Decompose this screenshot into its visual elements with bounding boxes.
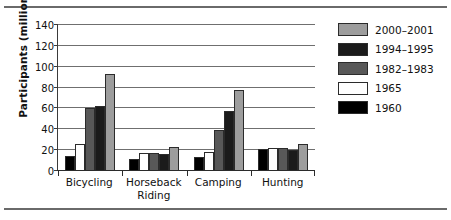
legend-swatch — [338, 62, 368, 75]
y-axis-title: Participants (millions) — [17, 0, 29, 126]
y-tick-label: 40 — [41, 124, 54, 135]
legend-swatch — [338, 82, 368, 95]
x-tick-label-line: Horseback — [122, 176, 187, 189]
legend-item: 1960 — [338, 101, 434, 114]
bar — [258, 149, 268, 171]
top-divider-rule — [4, 6, 447, 8]
legend-label: 2000–2001 — [375, 24, 434, 36]
bar-group — [187, 25, 251, 171]
bar — [85, 108, 95, 171]
bar — [278, 148, 288, 171]
y-tick-label: 100 — [35, 61, 54, 72]
plot-area: 020406080100120140 — [57, 25, 315, 171]
x-axis-line — [57, 170, 315, 171]
bar — [194, 157, 204, 171]
bar — [159, 154, 169, 171]
legend-item: 1994–1995 — [338, 43, 434, 56]
bar — [139, 153, 149, 171]
y-tick-label: 120 — [35, 40, 54, 51]
legend-label: 1994–1995 — [375, 43, 434, 55]
bar — [95, 106, 105, 171]
legend-swatch — [338, 23, 368, 36]
y-tick-label: 0 — [48, 166, 54, 177]
legend-item: 1965 — [338, 82, 434, 95]
y-tick-label: 20 — [41, 145, 54, 156]
legend-swatch — [338, 101, 368, 114]
x-tick-label: Bicycling — [57, 176, 122, 201]
x-tick-label-line: Bicycling — [57, 176, 122, 189]
bar-groups — [58, 25, 315, 171]
bar — [298, 144, 308, 171]
bar-group — [58, 25, 122, 171]
bar — [105, 74, 115, 172]
bar — [224, 111, 234, 171]
bar — [149, 153, 159, 171]
x-tick-label: Hunting — [251, 176, 316, 201]
bar — [204, 152, 214, 171]
bar-group — [251, 25, 315, 171]
y-tick-label: 80 — [41, 82, 54, 93]
x-tick-label: HorsebackRiding — [122, 176, 187, 201]
legend-label: 1965 — [375, 82, 402, 94]
legend-label: 1982–1983 — [375, 63, 434, 75]
legend: 2000–20011994–19951982–198319651960 — [338, 23, 434, 114]
y-tick-label: 140 — [35, 20, 54, 31]
bar — [75, 144, 85, 171]
x-tick-label-line: Riding — [122, 189, 187, 202]
legend-item: 2000–2001 — [338, 23, 434, 36]
bar — [268, 148, 278, 171]
x-tick-label-line: Camping — [186, 176, 251, 189]
bar — [214, 130, 224, 171]
bar — [234, 90, 244, 171]
bar-chart-figure: Participants (millions) 0204060801001201… — [0, 0, 451, 220]
legend-swatch — [338, 43, 368, 56]
legend-label: 1960 — [375, 102, 402, 114]
bar — [169, 147, 179, 171]
y-tick-label: 60 — [41, 103, 54, 114]
bar — [288, 150, 298, 171]
x-tick-label-line: Hunting — [251, 176, 316, 189]
bottom-divider-rule — [4, 208, 447, 210]
legend-item: 1982–1983 — [338, 62, 434, 75]
bar-group — [122, 25, 186, 171]
x-tick-label: Camping — [186, 176, 251, 201]
bar — [65, 156, 75, 171]
x-axis-labels: BicyclingHorsebackRidingCampingHunting — [57, 176, 315, 201]
